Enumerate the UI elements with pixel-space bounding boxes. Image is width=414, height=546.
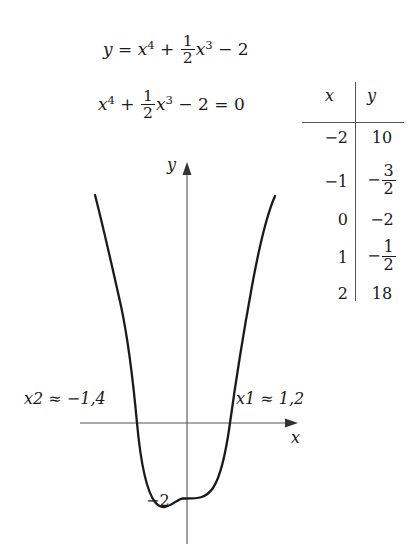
eq1-exponent-3: 3 [205, 38, 212, 52]
eq1-var: x [138, 39, 148, 59]
eq1-exponent-4: 4 [147, 38, 154, 52]
eq1-equals: = [118, 39, 132, 59]
eq2-fraction-one-half: 12 [141, 88, 155, 122]
function-graph [0, 150, 414, 546]
eq2-fraction-numerator: 1 [141, 88, 155, 104]
root-label-x2-symbol: x [24, 389, 33, 408]
function-definition-equation: y = x4 + 12x3 − 2 [103, 34, 248, 68]
table-header-x: x [325, 86, 334, 105]
eq2-equals: = [214, 94, 228, 114]
eq1-lhs: y [103, 39, 113, 59]
y-intercept-label: −2 [146, 491, 170, 510]
eq1-minus: − [218, 39, 232, 59]
eq2-constant: 2 [198, 94, 209, 114]
root-label-x1-subscript: 1 [245, 389, 255, 408]
root-label-x1-value: 1,2 [279, 389, 304, 408]
x-axis-label: x [291, 428, 300, 447]
eq1-fraction-one-half: 12 [181, 33, 195, 67]
quartic-curve [95, 195, 275, 507]
root-label-x1-symbol: x [236, 389, 245, 408]
root-equation: x4 + 12x3 − 2 = 0 [98, 89, 245, 123]
root-label-x2-subscript: 2 [33, 389, 43, 408]
eq2-exponent-4: 4 [108, 93, 115, 107]
eq1-fraction-numerator: 1 [181, 33, 195, 49]
root-label-x2-value: −1,4 [67, 389, 106, 408]
eq2-fraction-denominator: 2 [141, 104, 155, 121]
root-label-x2-approx: ≈ [48, 389, 61, 408]
root-label-x2: x2 ≈ −1,4 [24, 389, 106, 408]
eq2-var2: x [156, 94, 166, 114]
eq2-var: x [98, 94, 108, 114]
eq2-minus: − [178, 94, 192, 114]
eq2-exponent-3: 3 [166, 93, 173, 107]
worksheet-page: y = x4 + 12x3 − 2 x4 + 12x3 − 2 = 0 x y … [0, 0, 414, 546]
table-cell-y: 10 [356, 128, 408, 147]
eq1-constant: 2 [238, 39, 249, 59]
eq1-fraction-denominator: 2 [181, 49, 195, 66]
y-axis-label: y [167, 155, 176, 174]
eq1-var2: x [196, 39, 206, 59]
root-label-x1-approx: ≈ [260, 389, 273, 408]
x-axis [80, 419, 298, 428]
table-horizontal-rule [302, 122, 404, 123]
table-header-y: y [367, 86, 376, 105]
eq2-zero: 0 [234, 94, 245, 114]
eq1-plus: + [160, 39, 174, 59]
root-label-x1: x1 ≈ 1,2 [236, 389, 304, 408]
eq2-plus: + [120, 94, 134, 114]
table-cell-x: −2 [298, 128, 352, 147]
y-axis [183, 162, 192, 544]
